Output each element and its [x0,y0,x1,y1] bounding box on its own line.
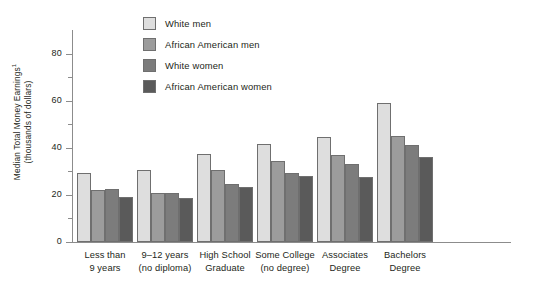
bar [151,193,165,242]
bar [391,136,405,242]
legend-label: African American women [165,81,272,92]
bar [197,154,211,242]
legend-label: White women [165,60,223,71]
bar [359,177,373,242]
bar [377,103,391,242]
bar [271,161,285,242]
legend-swatch-icon [143,38,156,51]
x-axis-label-line: Bachelors [359,249,451,262]
bar [345,164,359,242]
bar-group [77,30,133,242]
y-tick-label: 60 [30,95,62,105]
bar [299,176,313,242]
legend-item: White women [143,55,272,76]
plot-area [73,30,511,242]
x-axis-label-line: Degree [359,262,451,275]
y-axis-title-line1: Median Total Money Earnings [12,67,22,180]
bar-group [317,30,373,242]
y-tick-label: 40 [30,142,62,152]
bar [105,189,119,242]
legend-item: African American men [143,34,272,55]
bar [419,157,433,242]
bar [285,173,299,242]
y-tick-label: 20 [30,189,62,199]
legend-item: White men [143,13,272,34]
bar-group [377,30,433,242]
bar [211,170,225,242]
bar [239,187,253,242]
legend-label: White men [165,18,211,29]
legend-swatch-icon [143,59,156,72]
bar [405,145,419,242]
bar [257,144,271,242]
bar [119,197,133,242]
legend-swatch-icon [143,80,156,93]
x-axis-line [72,242,511,243]
bar [179,198,193,242]
legend-swatch-icon [143,17,156,30]
y-tick-label: 0 [30,236,62,246]
legend: White menAfrican American menWhite women… [143,13,272,97]
y-tick-major [66,195,73,196]
x-axis-label: BachelorsDegree [359,249,451,274]
legend-item: African American women [143,76,272,97]
y-tick-major [66,101,73,102]
bar [77,173,91,242]
y-tick-major [66,148,73,149]
bar [165,193,179,242]
bar [225,184,239,242]
bar [137,170,151,242]
y-tick-major [66,242,73,243]
bar [317,137,331,242]
y-axis-title-superscript: 1 [11,64,17,67]
bar-chart: Median Total Money Earnings1 (thousands … [0,0,534,289]
bar [91,190,105,242]
y-tick-major [66,54,73,55]
legend-label: African American men [165,39,260,50]
bar [331,155,345,242]
y-tick-label: 80 [30,48,62,58]
